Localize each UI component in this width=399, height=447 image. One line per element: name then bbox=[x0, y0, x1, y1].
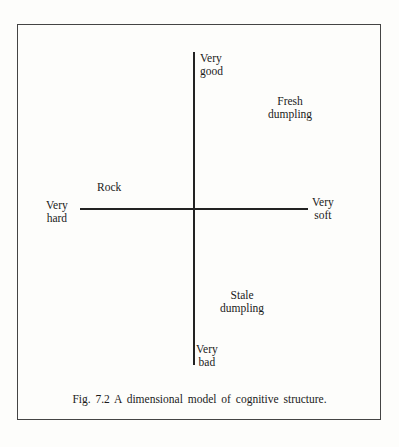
axis-label-very-hard: Very hard bbox=[46, 199, 68, 225]
point-stale-dumpling: Stale dumpling bbox=[220, 289, 264, 315]
figure-caption: Fig. 7.2 A dimensional model of cognitiv… bbox=[0, 393, 399, 405]
axis-label-very-good: Very good bbox=[200, 52, 223, 78]
point-fresh-dumpling: Fresh dumpling bbox=[268, 95, 312, 121]
horizontal-axis-hard-soft bbox=[80, 208, 308, 210]
axis-label-very-bad: Very bad bbox=[196, 343, 218, 369]
axis-label-very-soft: Very soft bbox=[312, 196, 334, 222]
point-rock: Rock bbox=[97, 181, 121, 194]
